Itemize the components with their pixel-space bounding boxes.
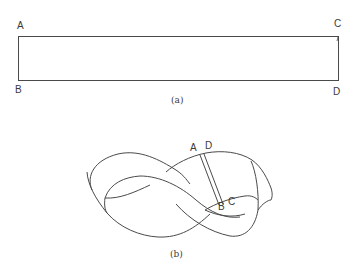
label-a-bottom-right: D — [333, 87, 340, 97]
label-a-bottom-left: B — [15, 85, 22, 95]
caption-b: (b) — [170, 250, 183, 259]
diagram-canvas — [0, 0, 356, 264]
caption-a: (a) — [171, 96, 183, 105]
strip-corner-tick — [337, 37, 338, 41]
label-b-b: B — [218, 202, 225, 212]
strip-rectangle — [19, 37, 339, 81]
label-b-d: D — [205, 141, 212, 151]
mobius-strip — [87, 152, 272, 237]
label-b-a: A — [190, 143, 197, 153]
label-a-top-right: C — [334, 19, 341, 29]
label-a-top-left: A — [17, 21, 24, 31]
label-b-c: C — [228, 197, 235, 207]
